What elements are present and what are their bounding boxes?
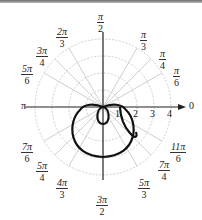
label-4pi-3: 4π3 [56,178,68,199]
label-7pi-4: 7π4 [158,160,170,181]
label-2pi-3: 2π3 [56,27,68,48]
label-5pi-6: 5π6 [21,64,33,85]
label-pi-2: π2 [97,12,104,33]
label-pi-6: π6 [173,66,180,87]
label-zero: 0 [189,100,194,111]
label-3pi-4: 3π4 [36,46,48,67]
label-5pi-4: 5π4 [36,161,48,182]
radial-tick-2: 2 [133,108,138,119]
radial-tick-1: 1 [115,108,120,119]
label-11pi-6: 11π6 [170,142,186,163]
label-pi: π [21,100,26,111]
radial-tick-4: 4 [167,108,172,119]
label-pi-4: π4 [159,49,166,70]
arrow-icon [178,104,186,110]
label-3pi-2: 3π2 [96,195,108,216]
label-5pi-3: 5π3 [138,178,150,199]
label-pi-3: π3 [140,30,147,51]
radial-tick-3: 3 [150,108,155,119]
label-7pi-6: 7π6 [21,142,33,163]
